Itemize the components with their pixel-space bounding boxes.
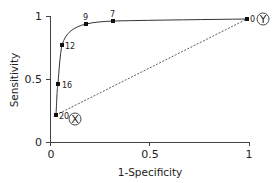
x-axis-title: 1-Specificity (118, 166, 183, 178)
x-tick-0: 0 (48, 148, 55, 161)
y-tick-1: 1 (35, 10, 42, 23)
svg-text:X: X (71, 113, 79, 126)
label-9: 9 (83, 13, 88, 22)
point-0 (245, 17, 249, 21)
label-16: 16 (62, 81, 72, 90)
label-20: 20 (59, 112, 69, 121)
x-tick-0.5: 0.5 (141, 148, 159, 161)
point-20 (54, 113, 58, 117)
y-axis: 1 0.5 0 (25, 10, 51, 149)
point-7 (111, 19, 115, 23)
circled-y-annotation: Y (257, 13, 269, 26)
y-tick-0: 0 (35, 136, 42, 149)
point-12 (60, 43, 64, 47)
circled-x-annotation: X (69, 113, 81, 126)
y-tick-0.5: 0.5 (25, 73, 43, 86)
label-0: 0 (250, 15, 255, 24)
chance-line (56, 19, 247, 115)
label-7: 7 (110, 10, 115, 19)
point-9 (84, 22, 88, 26)
roc-chart: 1 0.5 0 0 0.5 1 1-Specificity Sensitivit… (0, 0, 273, 183)
x-tick-1: 1 (246, 148, 253, 161)
y-axis-title: Sensitivity (8, 53, 20, 108)
point-16 (56, 82, 60, 86)
label-12: 12 (65, 42, 75, 51)
svg-text:Y: Y (259, 13, 267, 26)
x-axis: 0 0.5 1 (48, 142, 253, 161)
